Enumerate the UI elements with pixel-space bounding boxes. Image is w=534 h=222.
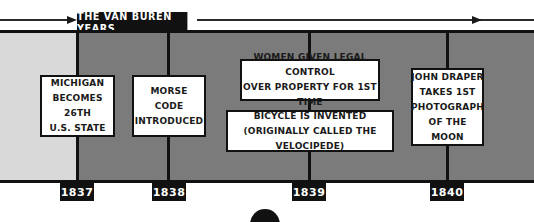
event-bicycle-invented: BICYCLE IS INVENTED (ORIGINALLY CALLED T… bbox=[226, 110, 394, 152]
event-text: MORSE CODE INTRODUCED bbox=[135, 84, 204, 129]
year-label-1837: 1837 bbox=[60, 183, 94, 201]
year-label-1838: 1838 bbox=[152, 183, 186, 201]
year-label-1839: 1839 bbox=[292, 183, 326, 201]
timeline-top-border bbox=[0, 30, 534, 33]
year-text: 1838 bbox=[153, 186, 186, 199]
decorative-circle-icon bbox=[250, 209, 280, 222]
year-text: 1839 bbox=[293, 186, 326, 199]
year-text: 1837 bbox=[61, 186, 94, 199]
event-text: JOHN DRAPER TAKES 1ST PHOTOGRAPH OF THE … bbox=[411, 70, 484, 145]
event-womens-property-rights: WOMEN GIVEN LEGAL CONTROL OVER PROPERTY … bbox=[240, 59, 380, 101]
timeline-arrow-left-segment bbox=[0, 19, 70, 21]
event-text: BICYCLE IS INVENTED (ORIGINALLY CALLED T… bbox=[228, 109, 392, 154]
year-text: 1840 bbox=[431, 186, 464, 199]
arrowhead-left-icon bbox=[67, 16, 77, 24]
period-title: THE VAN BUREN YEARS bbox=[77, 12, 187, 32]
event-text: MICHIGAN BECOMES 26TH U.S. STATE bbox=[42, 76, 113, 136]
arrowhead-right-icon bbox=[472, 16, 482, 24]
event-michigan-statehood: MICHIGAN BECOMES 26TH U.S. STATE bbox=[40, 75, 115, 137]
timeline-arrow-right-segment bbox=[197, 19, 534, 21]
event-morse-code: MORSE CODE INTRODUCED bbox=[132, 75, 206, 137]
event-text: WOMEN GIVEN LEGAL CONTROL OVER PROPERTY … bbox=[242, 50, 378, 110]
event-first-moon-photograph: JOHN DRAPER TAKES 1ST PHOTOGRAPH OF THE … bbox=[411, 68, 484, 146]
year-label-1840: 1840 bbox=[430, 183, 464, 201]
